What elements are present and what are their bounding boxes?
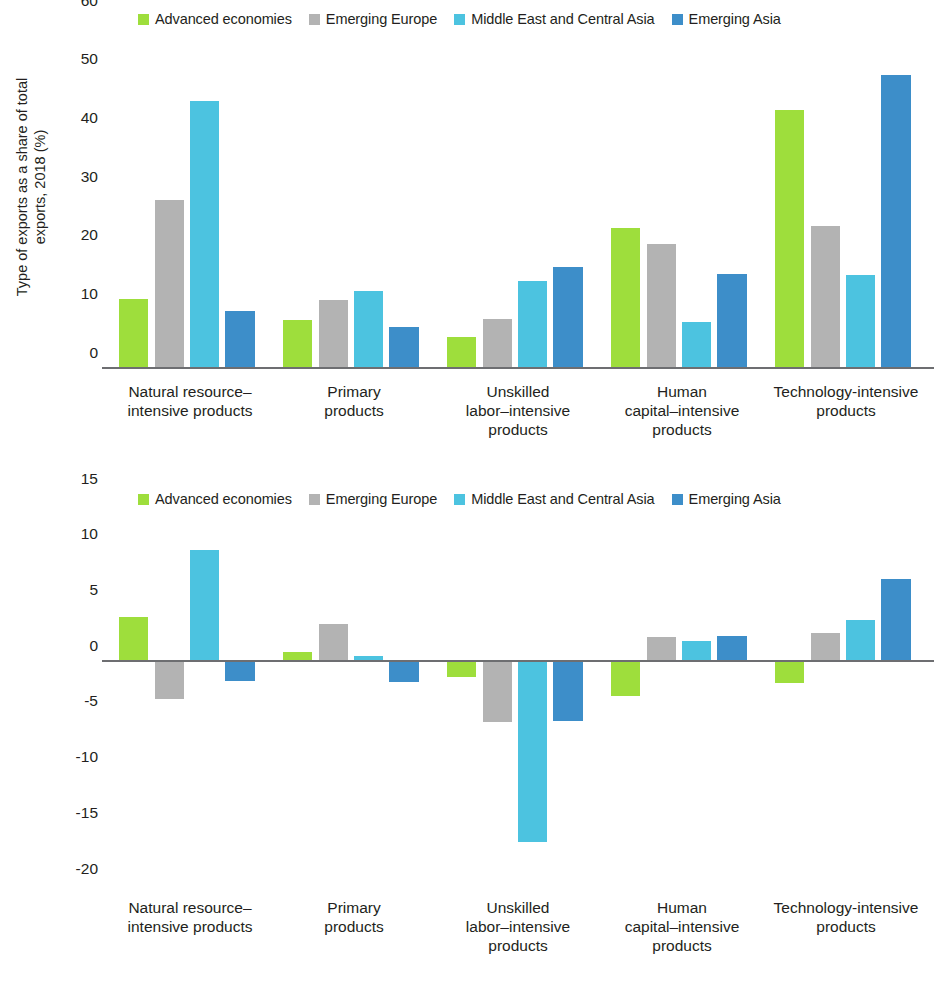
bar [518,661,547,842]
plot-area-top: 6050403020100 [108,16,928,368]
y-tick-15: 15 [81,471,98,487]
bar [553,661,582,721]
y-tick-0: 0 [89,638,98,654]
y-tick-neg20: -20 [76,861,98,877]
bar [717,636,746,662]
y-tick-10: 10 [81,286,98,302]
chart-page: Advanced economiesEmerging EuropeMiddle … [0,0,936,988]
category-label: Primary products [272,898,436,936]
bar [611,228,640,368]
y-axis-label-top: Type of exports as a share of total expo… [14,12,49,362]
y-tick-neg15: -15 [76,805,98,821]
category-label: Primary products [272,382,436,420]
bar [846,275,875,368]
bar [447,661,476,677]
y-axis-label-bottom: Change in type of exports as a share of … [14,965,49,988]
y-tick-neg10: -10 [76,749,98,765]
bar [155,200,184,368]
category-label: Technology-intensive products [764,382,928,420]
y-tick-60: 60 [81,0,98,8]
bar-groups-bottom [108,494,928,884]
bar [518,281,547,368]
bar [483,319,512,368]
bar [319,624,348,661]
bar [483,661,512,722]
bar [190,101,219,368]
category-label: Technology-intensive products [764,898,928,936]
y-tick-40: 40 [81,110,98,126]
bar [881,75,910,368]
plot-area-bottom: 151050-5-10-15-20 [108,494,928,884]
bar [225,311,254,368]
bar [190,550,219,661]
category-label: Unskilled labor–intensive products [436,382,600,439]
bar [682,641,711,661]
category-label: Human capital–intensive products [600,382,764,439]
y-tick-30: 30 [81,169,98,185]
category-label: Natural resource– intensive products [108,382,272,420]
bar [611,661,640,696]
bar [775,661,804,683]
y-tick-5: 5 [89,582,98,598]
bottom-chart-panel: Advanced economiesEmerging EuropeMiddle … [0,480,936,988]
bar [119,299,148,368]
category-label: Unskilled labor–intensive products [436,898,600,955]
bar [717,274,746,368]
zero-axis-line-bottom [102,660,934,662]
bar [682,322,711,368]
y-tick-50: 50 [81,51,98,67]
bar [119,617,148,662]
bar [846,620,875,661]
top-chart-panel: Advanced economiesEmerging EuropeMiddle … [0,0,936,472]
y-tick-10: 10 [81,526,98,542]
bar [225,661,254,681]
bar [389,327,418,368]
y-tick-0: 0 [89,345,98,361]
bar [447,337,476,368]
bar [553,267,582,368]
bar [647,637,676,662]
bar [155,661,184,699]
x-axis-line-top [102,367,934,369]
bar [881,579,910,661]
category-label: Natural resource– intensive products [108,898,272,936]
bar [319,300,348,368]
bar [811,226,840,368]
bar [647,244,676,368]
bar [354,291,383,368]
bar [811,633,840,661]
bar [283,320,312,368]
bar-groups-top [108,16,928,368]
bar [775,110,804,368]
category-label: Human capital–intensive products [600,898,764,955]
y-tick-20: 20 [81,227,98,243]
y-tick-neg5: -5 [84,694,98,710]
bar [389,661,418,682]
